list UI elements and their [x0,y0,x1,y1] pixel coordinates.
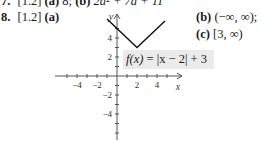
function-name: f(x) [126,52,143,66]
function-curve [107,19,165,48]
y-tick-label: 4 [108,33,113,43]
x-axis-label: x [175,81,181,92]
y-tick-label: −4 [102,109,112,119]
x-tick-label: 4 [155,80,160,90]
x-tick-label: 2 [135,80,140,90]
x-tick-label: −2 [92,80,102,90]
function-graph: −4 −2 2 4 x 4 2 −2 −4 y [0,0,280,142]
function-expression: = |x − 2| + 3 [143,52,207,66]
function-label: f(x) = |x − 2| + 3 [123,50,214,69]
y-tick-label: 2 [108,52,113,62]
y-tick-label: −2 [102,90,112,100]
x-tick-label: −4 [72,80,82,90]
